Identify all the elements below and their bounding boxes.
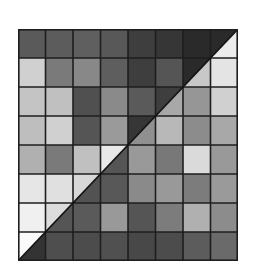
grid-cell <box>73 87 101 116</box>
grid-cell <box>101 58 129 87</box>
grid-cell <box>128 174 156 203</box>
grid-cell <box>128 58 156 87</box>
grid-cell <box>156 174 184 203</box>
grid-cell <box>73 145 101 174</box>
grid-cell <box>156 58 184 87</box>
grid-cell <box>46 58 74 87</box>
grid-cell <box>18 145 46 174</box>
grid-cell <box>46 174 74 203</box>
grid-canvas <box>18 29 238 261</box>
grid-cell <box>101 87 129 116</box>
grid-cell <box>211 232 239 261</box>
grid-cell <box>73 232 101 261</box>
grid-cell <box>211 87 239 116</box>
grid-cell <box>46 232 74 261</box>
grid-cell <box>156 29 184 58</box>
grid-cell <box>101 174 129 203</box>
grid-cell <box>101 116 129 145</box>
grid-cell <box>211 145 239 174</box>
grid-cell <box>128 145 156 174</box>
grid-cell <box>183 87 211 116</box>
grid-cell <box>183 145 211 174</box>
grid-cell <box>73 116 101 145</box>
grid-cell <box>101 29 129 58</box>
grid-cell <box>128 87 156 116</box>
grid-cell <box>156 145 184 174</box>
grid-cell <box>46 116 74 145</box>
grid-cell <box>46 29 74 58</box>
grid-cell <box>18 174 46 203</box>
grid-cell <box>128 232 156 261</box>
grid-cell <box>183 203 211 232</box>
grid-cell <box>183 29 211 58</box>
grid-cell <box>183 232 211 261</box>
grid-cell <box>46 87 74 116</box>
grid-cell <box>18 58 46 87</box>
grid-cell <box>101 203 129 232</box>
grid-cell <box>18 87 46 116</box>
grid-cell <box>156 203 184 232</box>
grid-cell <box>211 174 239 203</box>
grid-cell <box>18 203 46 232</box>
grid-cell <box>183 116 211 145</box>
grid-cell <box>183 174 211 203</box>
grid-cell <box>128 203 156 232</box>
grid-cell <box>18 29 46 58</box>
grid-cell <box>211 203 239 232</box>
grid-cell <box>73 29 101 58</box>
grayscale-grid-diagram <box>18 29 238 261</box>
grid-cell <box>46 145 74 174</box>
grid-cell <box>73 58 101 87</box>
grid-cell <box>73 203 101 232</box>
grid-cell <box>211 58 239 87</box>
grid-cell <box>211 116 239 145</box>
grid-cell <box>18 116 46 145</box>
grid-cell <box>101 232 129 261</box>
grid-cell <box>156 116 184 145</box>
grid-cell <box>156 232 184 261</box>
grid-cell <box>128 29 156 58</box>
